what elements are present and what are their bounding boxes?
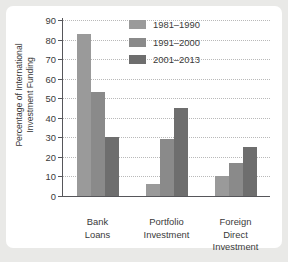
y-axis-title-line-2: Investment Funding: [25, 57, 37, 132]
legend-label: 2001–2013: [153, 54, 200, 65]
bar: [77, 34, 91, 196]
bar: [215, 176, 229, 196]
legend-label: 1991–2000: [153, 37, 200, 48]
x-axis-line: [62, 196, 270, 197]
y-tick-label-30: 30: [46, 132, 56, 143]
y-tick-label-80: 80: [46, 34, 56, 45]
bar: [91, 92, 105, 196]
legend-label: 1981–1990: [153, 19, 200, 30]
bar: [243, 147, 257, 196]
y-tick-label-90: 90: [46, 15, 56, 26]
y-tick-label-60: 60: [46, 73, 56, 84]
legend-item: 2001–2013: [129, 54, 200, 65]
legend: 1981–19901991–20002001–2013: [129, 19, 200, 65]
bar: [174, 108, 188, 196]
bar-group: [77, 20, 119, 196]
legend-swatch-icon: [129, 20, 146, 29]
y-tick-label-50: 50: [46, 93, 56, 104]
bar: [146, 184, 160, 196]
legend-swatch-icon: [129, 55, 146, 64]
y-tick-label-0: 0: [51, 191, 56, 202]
bar-group: [215, 20, 257, 196]
bar: [105, 137, 119, 196]
y-axis-title-line-1: Percentage of International: [14, 43, 26, 146]
y-tick-label-40: 40: [46, 112, 56, 123]
y-axis-title: Percentage of International Investment F…: [10, 20, 40, 170]
legend-item: 1991–2000: [129, 37, 200, 48]
legend-swatch-icon: [129, 38, 146, 47]
y-tick-label-10: 10: [46, 171, 56, 182]
bar: [229, 163, 243, 196]
x-category-label: Foreign Direct Investment: [201, 216, 270, 254]
figure-card: Percentage of International Investment F…: [6, 6, 282, 248]
grouped-bar-chart: Percentage of International Investment F…: [6, 6, 282, 248]
y-tick-label-20: 20: [46, 151, 56, 162]
y-tick-label-70: 70: [46, 54, 56, 65]
legend-item: 1981–1990: [129, 19, 200, 30]
bar: [160, 139, 174, 196]
x-category-label: Portfolio Investment: [132, 216, 201, 241]
x-category-label: Bank Loans: [63, 216, 132, 241]
